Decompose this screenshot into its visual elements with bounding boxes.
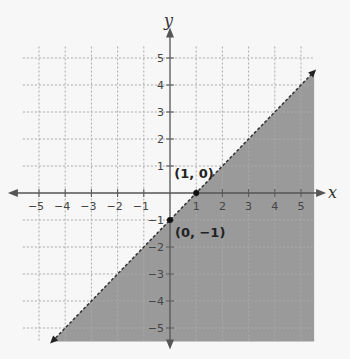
x-tick-label: 4	[271, 200, 278, 213]
y-tick-label: 3	[157, 106, 164, 119]
y-tick-label: 5	[157, 52, 164, 65]
x-axis-label: x	[328, 183, 337, 202]
coordinate-plane: −5−4−3−2−11234554321−1−2−3−4−5(1, 0)(0, …	[0, 0, 350, 359]
point-label-0-neg1: (0, −1)	[175, 225, 225, 240]
x-tick-label: 1	[193, 200, 200, 213]
x-tick-label: 2	[219, 200, 226, 213]
y-tick-label: −5	[148, 322, 164, 335]
x-tick-label: −5	[28, 200, 44, 213]
y-axis-label: y	[163, 11, 174, 30]
y-tick-label: −3	[148, 268, 164, 281]
x-tick-label: −3	[80, 200, 96, 213]
x-axis-right-arrow-icon	[316, 189, 326, 197]
plotted-point	[167, 217, 173, 223]
y-tick-label: 1	[157, 160, 164, 173]
point-label-1-0: (1, 0)	[174, 166, 213, 181]
x-tick-label: −2	[106, 200, 122, 213]
y-tick-label: −4	[148, 295, 164, 308]
boundary-arrow-end-icon	[308, 70, 316, 78]
y-axis-down-arrow-icon	[166, 340, 174, 350]
x-tick-label: 3	[245, 200, 252, 213]
x-tick-label: 5	[298, 200, 305, 213]
x-tick-label: −1	[133, 200, 149, 213]
x-tick-label: −4	[54, 200, 70, 213]
y-tick-label: 4	[157, 79, 164, 92]
y-tick-label: −2	[148, 241, 164, 254]
plotted-point	[193, 190, 199, 196]
y-tick-label: −1	[148, 214, 164, 227]
y-tick-label: 2	[157, 133, 164, 146]
x-axis-left-arrow-icon	[8, 189, 18, 197]
